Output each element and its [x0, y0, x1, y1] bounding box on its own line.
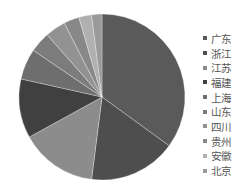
- legend-item: 浙江: [203, 46, 231, 61]
- legend-swatch-icon: [203, 154, 207, 158]
- legend-swatch-icon: [203, 139, 207, 143]
- legend-label: 上海: [211, 90, 231, 105]
- legend-item: 江苏: [203, 60, 231, 75]
- legend-item: 贵州: [203, 134, 231, 149]
- legend-item: 北京: [203, 163, 231, 178]
- legend-swatch-icon: [203, 169, 207, 173]
- legend-swatch-icon: [203, 66, 207, 70]
- legend-label: 贵州: [211, 134, 231, 149]
- legend-label: 江苏: [211, 60, 231, 75]
- legend-label: 安徽: [211, 148, 231, 163]
- legend-swatch-icon: [203, 36, 207, 40]
- legend-swatch-icon: [203, 110, 207, 114]
- legend-swatch-icon: [203, 95, 207, 99]
- legend-item: 四川: [203, 119, 231, 134]
- legend-swatch-icon: [203, 51, 207, 55]
- legend-item: 广东: [203, 31, 231, 46]
- legend-item: 山东: [203, 104, 231, 119]
- legend-label: 福建: [211, 75, 231, 90]
- legend-label: 北京: [211, 163, 231, 178]
- legend-label: 浙江: [211, 46, 231, 61]
- legend-swatch-icon: [203, 80, 207, 84]
- legend-swatch-icon: [203, 124, 207, 128]
- legend-label: 四川: [211, 119, 231, 134]
- legend-item: 福建: [203, 75, 231, 90]
- legend-label: 山东: [211, 104, 231, 119]
- legend-label: 广东: [211, 31, 231, 46]
- legend-item: 安徽: [203, 149, 231, 164]
- legend-item: 上海: [203, 90, 231, 105]
- legend: 广东 浙江 江苏 福建 上海 山东 四川 贵州 安徽 北京: [203, 31, 231, 178]
